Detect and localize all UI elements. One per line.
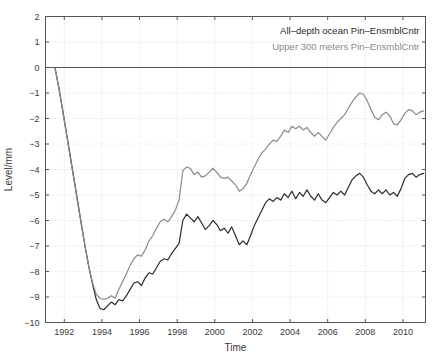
legend-entry-all-depth-ocean: All–depth ocean Pin–EnsmblCntr — [280, 25, 419, 36]
legend-entry-upper-300-meters: Upper 300 meters Pin–EnsmblCntr — [272, 41, 419, 52]
x-tick-label: 2006 — [318, 327, 338, 337]
y-axis-tick-labels: 210−1−2−3−4−5−6−7−8−9−10 — [24, 12, 39, 328]
x-tick-label: 1996 — [130, 327, 150, 337]
x-tick-label: 2004 — [280, 327, 300, 337]
y-tick-label: −6 — [29, 216, 39, 226]
x-axis-title: Time — [225, 342, 247, 353]
y-tick-label: −5 — [29, 190, 39, 200]
chart-figure: 1992199419961998200020022004200620082010… — [0, 0, 439, 360]
y-axis-title: Level/mm — [3, 148, 14, 191]
y-tick-label: −2 — [29, 114, 39, 124]
x-tick-label: 1998 — [167, 327, 187, 337]
y-tick-label: 2 — [34, 12, 39, 22]
x-tick-label: 2008 — [355, 327, 375, 337]
x-tick-label: 2010 — [393, 327, 413, 337]
x-tick-label: 1994 — [92, 327, 112, 337]
y-tick-label: −8 — [29, 267, 39, 277]
y-tick-label: −10 — [24, 318, 39, 328]
y-tick-label: 0 — [34, 63, 39, 73]
y-tick-label: −7 — [29, 241, 39, 251]
y-tick-label: 1 — [34, 37, 39, 47]
line-chart: 1992199419961998200020022004200620082010… — [0, 0, 439, 360]
x-tick-label: 1992 — [54, 327, 74, 337]
x-tick-label: 2002 — [242, 327, 262, 337]
y-tick-label: −3 — [29, 139, 39, 149]
y-tick-label: −4 — [29, 165, 39, 175]
x-tick-label: 2000 — [205, 327, 225, 337]
y-tick-label: −1 — [29, 88, 39, 98]
x-axis-tick-labels: 1992199419961998200020022004200620082010 — [54, 327, 413, 337]
y-tick-label: −9 — [29, 292, 39, 302]
